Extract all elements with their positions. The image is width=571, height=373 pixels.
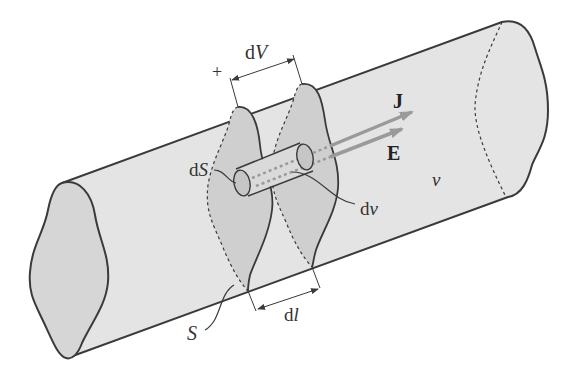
plus-sign-label: + [212, 62, 222, 82]
dS-label: dS [189, 159, 209, 180]
dV-extension-right [293, 55, 302, 84]
v-label: v [432, 169, 441, 190]
dl-extension-right [312, 267, 320, 288]
J-label: J [393, 90, 403, 112]
dV-label: dV [245, 41, 270, 63]
dv-label: dv [360, 198, 379, 219]
dl-label: dl [284, 304, 299, 325]
E-label: E [387, 142, 400, 164]
dV-extension-left [230, 78, 238, 107]
conductor-diagram: + dV J E dS dv v S dl [0, 0, 571, 373]
S-label: S [187, 322, 197, 344]
dl-extension-left [248, 291, 256, 311]
